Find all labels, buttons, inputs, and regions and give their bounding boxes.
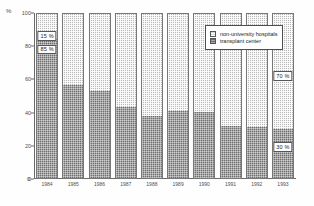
bar-segment-transplant-center[interactable] — [168, 111, 188, 178]
x-axis-origin-label: 0 — [27, 176, 30, 182]
bar-column[interactable] — [165, 13, 191, 179]
x-axis-tick-label: 1985 — [60, 181, 86, 187]
bar-column[interactable] — [139, 13, 165, 179]
bar-segment-transplant-center[interactable] — [221, 126, 241, 178]
x-axis-labels: 1984198519861987198819891990199119921993 — [34, 181, 296, 187]
legend-item[interactable]: non-university hospitals — [210, 31, 277, 37]
legend-item-label: non-university hospitals — [220, 31, 277, 37]
value-annotation: 30 % — [273, 142, 292, 152]
bar-segment-non-university-hospitals[interactable] — [142, 14, 162, 116]
value-annotation: 15 % — [37, 31, 56, 41]
bar-stack[interactable] — [89, 13, 111, 179]
x-axis-tick-label: 1988 — [139, 181, 165, 187]
bar-segment-transplant-center[interactable] — [142, 116, 162, 178]
bar-column[interactable] — [113, 13, 139, 179]
bar-column[interactable] — [60, 13, 86, 179]
bar-stack[interactable] — [115, 13, 137, 179]
bar-segment-non-university-hospitals[interactable] — [116, 14, 136, 107]
bar-stack[interactable] — [167, 13, 189, 179]
legend-swatch-icon — [210, 31, 216, 37]
x-axis-tick-label: 1992 — [244, 181, 270, 187]
chart-legend: non-university hospitalstransplant cente… — [205, 25, 283, 50]
bar-segment-non-university-hospitals[interactable] — [90, 14, 110, 91]
bar-segment-transplant-center[interactable] — [90, 91, 110, 178]
bar-segment-transplant-center[interactable] — [194, 112, 214, 178]
bar-column[interactable] — [86, 13, 112, 179]
value-annotation: 85 % — [37, 45, 56, 55]
legend-item-label: transplant center — [220, 38, 261, 44]
bar-segment-transplant-center[interactable] — [273, 129, 293, 178]
value-annotation: 70 % — [273, 71, 292, 81]
x-axis-tick-label: 1991 — [217, 181, 243, 187]
x-axis-tick-label: 1984 — [34, 181, 60, 187]
bar-segment-transplant-center[interactable] — [247, 127, 267, 178]
bar-segment-transplant-center[interactable] — [116, 107, 136, 178]
bar-segment-transplant-center[interactable] — [37, 39, 57, 178]
x-axis-tick-label: 1986 — [86, 181, 112, 187]
x-axis-tick-label: 1993 — [270, 181, 296, 187]
bar-segment-transplant-center[interactable] — [63, 85, 83, 178]
x-axis-tick-label: 1990 — [191, 181, 217, 187]
legend-item[interactable]: transplant center — [210, 38, 277, 44]
y-axis-title: % — [6, 8, 11, 14]
bar-segment-non-university-hospitals[interactable] — [63, 14, 83, 85]
bar-segment-non-university-hospitals[interactable] — [168, 14, 188, 111]
bar-stack[interactable] — [62, 13, 84, 179]
x-axis-tick-label: 1989 — [165, 181, 191, 187]
bar-stack[interactable] — [141, 13, 163, 179]
stacked-bar-chart: % 100806040200 15 %85 %70 %30 % 0 198419… — [0, 0, 314, 206]
x-axis-tick-label: 1987 — [113, 181, 139, 187]
legend-swatch-icon — [210, 38, 216, 44]
